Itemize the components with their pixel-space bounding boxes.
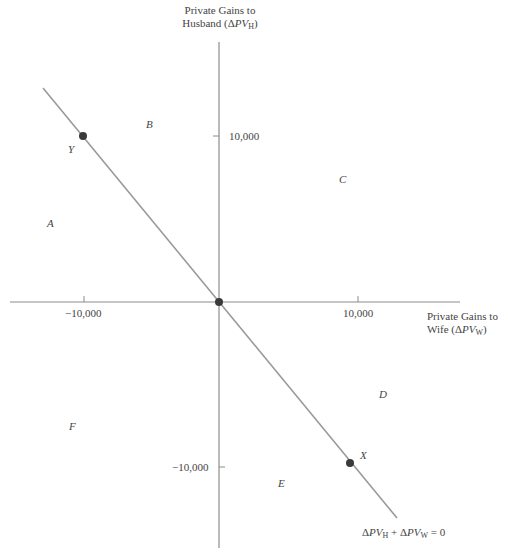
y-axis-label-line2: Husband (ΔPVH) [165, 17, 275, 30]
y-tick-label-neg: −10,000 [172, 461, 208, 474]
point-x-label: X [360, 449, 367, 462]
y-axis-label-line1: Private Gains to [165, 4, 275, 17]
x-axis-label-line1: Private Gains to [427, 310, 498, 323]
y-axis-label: Private Gains to Husband (ΔPVH) [165, 4, 275, 30]
point-x [346, 459, 354, 467]
region-b-label: B [146, 118, 153, 131]
point-y-label: Y [68, 143, 74, 156]
x-axis-label-line2: Wife (ΔPVW) [427, 323, 498, 336]
point-y [79, 132, 87, 140]
region-d-label: D [379, 388, 387, 401]
x-axis-label: Private Gains to Wife (ΔPVW) [427, 310, 498, 336]
point-origin [215, 298, 223, 306]
region-c-label: C [339, 173, 346, 186]
region-e-label: E [278, 477, 285, 490]
region-f-label: F [69, 420, 76, 433]
zero-sum-line-label: ΔPVH + ΔPVW = 0 [362, 526, 445, 539]
x-tick-label-neg: −10,000 [65, 307, 101, 320]
region-a-label: A [47, 217, 54, 230]
x-tick-label-pos: 10,000 [343, 307, 373, 320]
y-tick-label-pos: 10,000 [229, 130, 259, 143]
diagram-canvas [0, 0, 508, 558]
